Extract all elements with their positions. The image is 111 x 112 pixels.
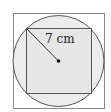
center-point — [57, 59, 61, 63]
radius-label: 7 cm — [45, 32, 75, 46]
geometry-diagram: 7 cm — [0, 0, 111, 112]
